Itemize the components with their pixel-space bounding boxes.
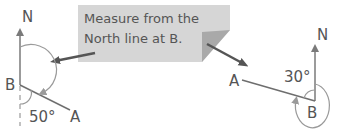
- angle-label: 50°: [29, 108, 56, 126]
- angle-arc-icon: [20, 90, 31, 104]
- right-diagram: N B A 30°: [229, 26, 329, 128]
- north-label: N: [317, 26, 328, 44]
- point-a-label: A: [229, 72, 240, 90]
- bearing-arc-icon: [20, 45, 56, 93]
- point-b-label: B: [307, 104, 317, 122]
- angle-arc-icon: [304, 90, 315, 98]
- point-a-label: A: [70, 108, 81, 126]
- callout-note: Measure from the North line at B.: [78, 5, 230, 62]
- left-diagram: N B A 50°: [5, 8, 81, 126]
- line-b-to-a: [20, 85, 70, 110]
- point-b-label: B: [5, 76, 15, 94]
- angle-label: 30°: [284, 68, 311, 86]
- callout-line-2: North line at B.: [84, 31, 182, 46]
- callout-line-1: Measure from the: [84, 11, 199, 26]
- callout-fold: [202, 30, 230, 62]
- north-label: N: [22, 8, 33, 26]
- bearing-diagram: Measure from the North line at B. N B A …: [0, 0, 351, 134]
- pointer-arrow-right: [207, 44, 244, 64]
